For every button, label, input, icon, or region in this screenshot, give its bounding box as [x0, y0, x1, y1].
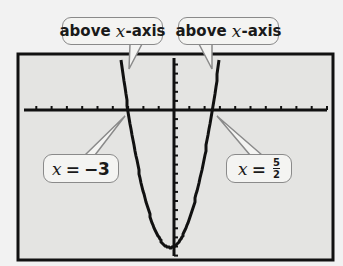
callout-text: above [175, 22, 226, 40]
callout-root-x-neg3: x=−3 [43, 154, 119, 183]
numerator: 5 [273, 158, 280, 167]
callout-text: -axis [125, 22, 165, 40]
graph-figure: above x-axis above x-axis x=−3 x= 52 [0, 0, 343, 266]
equals-sign: = [66, 159, 80, 179]
equals-sign: = [252, 159, 266, 179]
callout-text: -axis [241, 22, 281, 40]
callout-above-x-axis-right: above x-axis [178, 17, 279, 45]
callout-text: above [59, 22, 110, 40]
fraction-5-over-2: 52 [273, 158, 280, 180]
variable-x: x [232, 21, 242, 41]
denominator: 2 [273, 170, 280, 179]
root-value: −3 [84, 159, 110, 179]
variable-x: x [238, 159, 248, 179]
variable-x: x [52, 159, 62, 179]
callout-root-x-5-2: x= 52 [226, 154, 292, 183]
calculator-screen [0, 0, 343, 266]
callout-above-x-axis-left: above x-axis [62, 17, 163, 45]
variable-x: x [116, 21, 126, 41]
